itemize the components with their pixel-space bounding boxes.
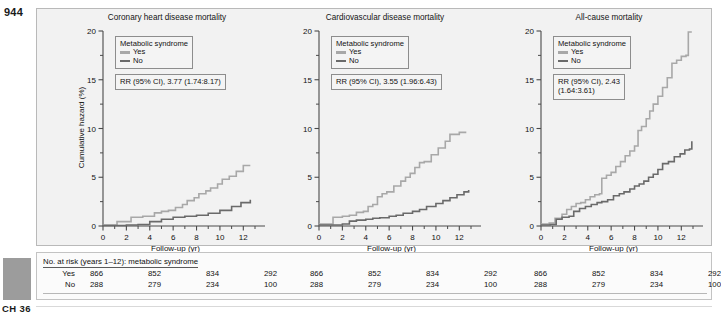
risk-cell: 288 [79,280,103,289]
legend: Metabolic syndromeYesNo [115,36,193,69]
caption-divider [36,306,712,307]
risk-cell: 834 [415,269,439,278]
risk-row-label-yes: Yes [51,269,75,278]
legend-swatch-icon [120,60,130,63]
risk-cell: 288 [523,280,547,289]
risk-cell: 852 [137,269,161,278]
risk-cell: 292 [473,269,497,278]
y-axis-label: Cumulative hazard (%) [77,57,86,197]
risk-cell: 234 [415,280,439,289]
risk-ratio-text-line: RR (95% CI), 3.77 (1.74:8.17) [120,77,221,86]
risk-ratio-annotation: RR (95% CI), 3.77 (1.74:8.17) [115,74,226,90]
margin-color-block [3,258,31,300]
risk-cell: 100 [253,280,277,289]
chart-panel-coronary-heart-disease: Coronary heart disease mortality 0510152… [37,9,269,247]
risk-cell: 100 [697,280,721,289]
legend-item-no: No [336,57,404,66]
risk-cell: 234 [639,280,663,289]
risk-table-bottom-rule [43,293,707,294]
risk-ratio-text-line: RR (95% CI), 3.55 (1.96:6.43) [336,77,437,86]
risk-cell: 866 [299,269,323,278]
risk-cell: 279 [357,280,381,289]
legend: Metabolic syndromeYesNo [553,36,631,69]
panel-overlay-1: Metabolic syndromeYesNoRR (95% CI), 3.55… [263,9,489,247]
legend-title: Metabolic syndrome [558,39,626,48]
risk-ratio-annotation: RR (95% CI), 3.55 (1.96:6.43) [331,74,442,90]
risk-ratio-annotation: RR (95% CI), 2.43(1.64:3.61) [553,74,625,100]
risk-cell: 279 [581,280,605,289]
legend-swatch-icon [558,60,568,63]
legend-title: Metabolic syndrome [120,39,188,48]
legend-swatch-icon [558,51,568,54]
legend-swatch-icon [120,51,130,54]
legend-item-label: No [571,57,581,66]
legend-item-no: No [558,57,626,66]
risk-cell: 866 [79,269,103,278]
risk-cell: 834 [195,269,219,278]
legend-title: Metabolic syndrome [336,39,404,48]
risk-cell: 279 [137,280,161,289]
legend-swatch-icon [336,60,346,63]
caption-cutoff-text [38,310,712,320]
risk-cell: 834 [639,269,663,278]
risk-table: No. at risk (years 1–12): metabolic synd… [36,252,712,300]
panel-overlay-0: Metabolic syndromeYesNoRR (95% CI), 3.77… [37,9,269,247]
legend-item-yes: Yes [120,48,188,57]
risk-table-heading: No. at risk (years 1–12): metabolic synd… [43,257,198,268]
chart-panel-cardiovascular-disease: Cardiovascular disease mortality 0510152… [263,9,489,247]
chapter-label: CH 36 [2,303,31,314]
legend: Metabolic syndromeYesNo [331,36,409,69]
risk-cell: 234 [195,280,219,289]
risk-cell: 866 [523,269,547,278]
legend-item-label: No [133,57,143,66]
panel-overlay-2: Metabolic syndromeYesNoRR (95% CI), 2.43… [483,9,713,247]
legend-item-yes: Yes [336,48,404,57]
legend-item-no: No [120,57,188,66]
risk-cell: 100 [473,280,497,289]
figure-panel-area: Coronary heart disease mortality 0510152… [36,8,712,246]
legend-swatch-icon [336,51,346,54]
risk-cell: 292 [697,269,721,278]
risk-row-label-no: No [51,280,75,289]
risk-ratio-text-line: (1.64:3.61) [558,86,620,95]
legend-item-label: No [349,57,359,66]
risk-cell: 852 [581,269,605,278]
chart-panel-all-cause: All-cause mortality 05101520024681012Met… [483,9,713,247]
legend-item-yes: Yes [558,48,626,57]
risk-cell: 288 [299,280,323,289]
risk-cell: 852 [357,269,381,278]
risk-cell: 292 [253,269,277,278]
risk-ratio-text-line: RR (95% CI), 2.43 [558,77,620,86]
page-number: 944 [4,6,23,18]
